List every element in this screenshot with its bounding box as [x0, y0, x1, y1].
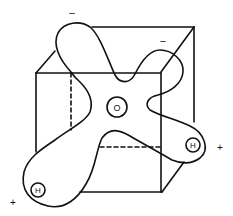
orbital-cube-diagram: O H H – – + + [0, 0, 233, 216]
cube-bottom-right-diagonal [162, 162, 184, 192]
cube-top-right-diagonal [161, 27, 194, 72]
charge-minus-top-right: – [160, 35, 166, 46]
diagram-canvas: O H H – – + + [0, 0, 233, 216]
charge-minus-top-left: – [69, 7, 75, 18]
hydrogen-left-label: H [35, 186, 41, 195]
orbital-outline [23, 23, 205, 207]
cube-top-left-diagonal [36, 51, 55, 73]
charge-plus-left: + [10, 197, 16, 208]
oxygen-label: O [113, 103, 120, 113]
hydrogen-right-label: H [190, 141, 196, 150]
charge-plus-right: + [217, 142, 223, 153]
